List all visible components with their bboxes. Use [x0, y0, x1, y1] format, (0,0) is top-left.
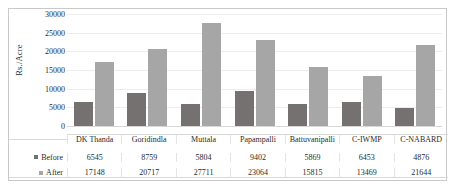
bar-before	[395, 108, 414, 126]
bar-series-layer	[67, 14, 442, 126]
table-header-row: DK ThandaGoridindlaMuttalaPapampalliBatt…	[9, 129, 448, 149]
bar-after	[309, 67, 328, 126]
table-header-cell: Papampalli	[230, 134, 284, 144]
bar-group	[388, 14, 442, 126]
table-data-cell: 4876	[394, 153, 448, 162]
y-axis-tick-label: 30000	[31, 10, 65, 19]
bar-after	[202, 23, 221, 126]
legend-item-before: Before	[9, 153, 67, 162]
table-header-cell: C-NABARD	[394, 134, 448, 144]
legend-label-after: After	[46, 168, 63, 177]
plot-canvas	[67, 14, 442, 126]
bar-after	[416, 45, 435, 126]
bar-before	[127, 93, 146, 126]
table-data-cell: 27711	[176, 168, 230, 178]
bar-group	[228, 14, 282, 126]
table-data-cell: 17148	[67, 168, 121, 178]
bar-group	[67, 14, 121, 126]
plot-area: Rs./Acre 050001000015000200002500030000	[9, 9, 448, 129]
table-header-cell: C-IWMP	[339, 134, 393, 144]
table-data-cell: 8759	[121, 153, 175, 162]
bar-after	[256, 40, 275, 126]
gridline	[67, 126, 442, 127]
table-header-cell: DK Thanda	[67, 134, 121, 144]
legend-item-after: After	[9, 168, 67, 178]
bar-before	[235, 91, 254, 126]
table-data-cell: 6453	[339, 153, 393, 162]
y-axis-tick-label: 5000	[31, 103, 65, 112]
y-axis-tick-label: 10000	[31, 84, 65, 93]
table-data-cell: 23064	[230, 168, 284, 178]
table-row-before: Before 6545875958049402586964534876	[9, 149, 448, 165]
y-axis-title: Rs./Acre	[14, 29, 24, 91]
table-row-after: After 1714820717277112306415815134692164…	[9, 165, 448, 181]
y-axis-tick-label: 20000	[31, 47, 65, 56]
legend-swatch-before-icon	[34, 155, 38, 159]
bar-group	[174, 14, 228, 126]
bar-group	[281, 14, 335, 126]
bar-before	[342, 102, 361, 126]
table-header-cell: Muttala	[176, 134, 230, 144]
bar-before	[181, 104, 200, 126]
bar-after	[148, 49, 167, 126]
y-axis-tick-label: 15000	[31, 66, 65, 75]
legend-swatch-after-icon	[39, 171, 43, 175]
table-data-cell: 15815	[285, 168, 339, 178]
chart-figure: Rs./Acre 050001000015000200002500030000 …	[8, 8, 447, 181]
y-axis-tick-label: 25000	[31, 28, 65, 37]
header-corner-cell	[9, 139, 67, 140]
table-header-cell: Goridindla	[121, 134, 175, 144]
table-data-cell: 6545	[67, 153, 121, 162]
bar-before	[74, 102, 93, 126]
chart-data-table: DK ThandaGoridindlaMuttalaPapampalliBatt…	[9, 129, 448, 181]
table-header-cell: Battuvanipalli	[285, 134, 339, 144]
table-data-cell: 21644	[394, 168, 448, 178]
table-data-cell: 5804	[176, 153, 230, 162]
table-data-cell: 5869	[285, 153, 339, 162]
bar-group	[335, 14, 389, 126]
bar-after	[95, 62, 114, 126]
table-data-cell: 20717	[121, 168, 175, 178]
table-data-cell: 9402	[230, 153, 284, 162]
bar-before	[288, 104, 307, 126]
table-data-cell: 13469	[339, 168, 393, 178]
bar-group	[121, 14, 175, 126]
bar-after	[363, 76, 382, 126]
legend-label-before: Before	[41, 153, 63, 162]
y-axis-tick-labels: 050001000015000200002500030000	[31, 9, 65, 129]
